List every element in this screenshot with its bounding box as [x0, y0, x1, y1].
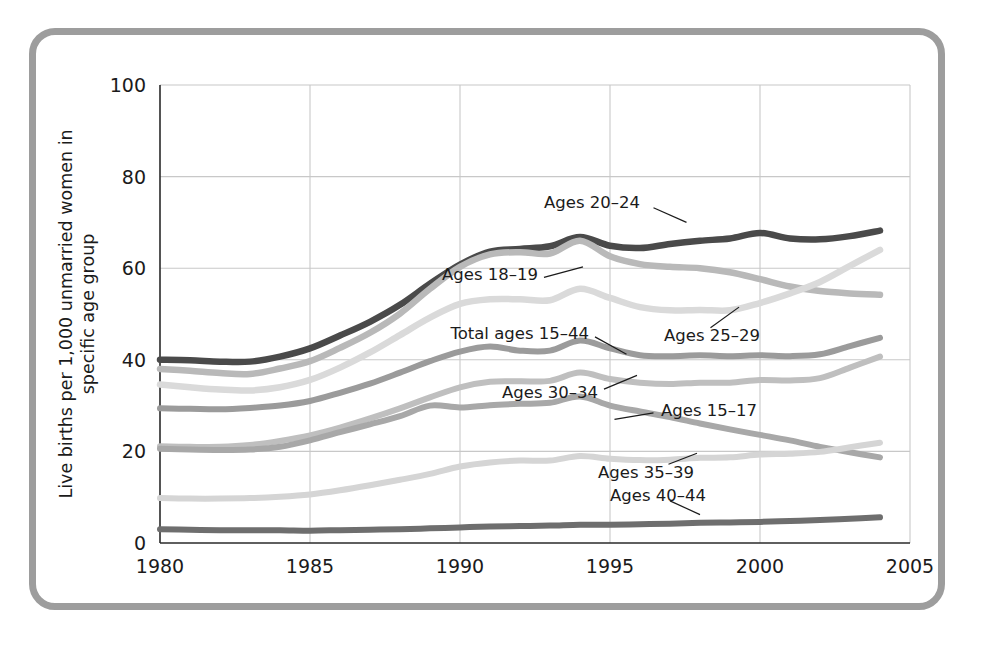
y-tick-label: 80 — [122, 166, 146, 188]
annotation-ages-35-39: Ages 35–39 — [598, 463, 694, 482]
x-tick-label: 1985 — [286, 555, 334, 577]
x-tick-label: 1980 — [136, 555, 184, 577]
x-tick-label: 1995 — [586, 555, 634, 577]
x-axis-tick-labels: 198019851990199520002005 — [136, 555, 934, 577]
axis-lines — [160, 85, 910, 543]
figure-container: 198019851990199520002005 020406080100 Li… — [0, 0, 991, 655]
y-axis-tick-labels: 020406080100 — [110, 74, 146, 554]
x-tick-label: 2005 — [886, 555, 934, 577]
annotation-ages-18-19: Ages 18–19 — [442, 265, 538, 284]
series-line-ages-40-44 — [160, 517, 880, 530]
y-axis-title-line-2: specific age group — [78, 234, 98, 395]
annotation-ages-20-24: Ages 20–24 — [544, 193, 640, 212]
line-chart: 198019851990199520002005 020406080100 Li… — [0, 0, 991, 655]
x-tick-label: 2000 — [736, 555, 784, 577]
annotation-ages-15-17: Ages 15–17 — [661, 401, 757, 420]
annotation-ages-40-44: Ages 40–44 — [610, 486, 706, 505]
annotation-ages-30-34: Ages 30–34 — [502, 383, 598, 402]
y-tick-label: 0 — [134, 532, 146, 554]
annotation-total-ages-15-44: Total ages 15–44 — [449, 324, 589, 343]
gridlines — [160, 85, 910, 543]
leader-line-ages-20-24 — [654, 208, 687, 223]
x-tick-label: 1990 — [436, 555, 484, 577]
y-tick-label: 20 — [122, 440, 146, 462]
y-axis-title-line-1: Live births per 1,000 unmarried women in — [56, 129, 76, 498]
annotation-ages-25-29: Ages 25–29 — [664, 326, 760, 345]
leader-line-ages-15-17 — [615, 413, 654, 419]
y-tick-label: 100 — [110, 74, 146, 96]
y-tick-label: 40 — [122, 349, 146, 371]
y-tick-label: 60 — [122, 257, 146, 279]
y-axis-title: Live births per 1,000 unmarried women in… — [56, 129, 98, 498]
